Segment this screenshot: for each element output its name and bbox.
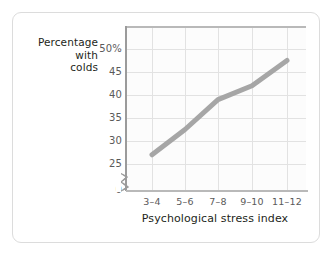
y-tick-label-45: 45 bbox=[88, 66, 122, 77]
y-tick-label-50: 50% bbox=[88, 43, 122, 54]
y-tick-label-25: 25 bbox=[88, 158, 122, 169]
y-tick-label-35: 35 bbox=[88, 112, 122, 123]
y-tick-label-30: 30 bbox=[88, 135, 122, 146]
x-axis-title: Psychological stress index bbox=[100, 212, 330, 225]
y-axis-title-line-3: colds bbox=[18, 61, 98, 74]
line-chart: Percentage with colds 50% 45 40 35 30 25… bbox=[0, 0, 334, 257]
y-tick-label-40: 40 bbox=[88, 89, 122, 100]
y-axis-title-line-2: with bbox=[18, 49, 98, 62]
data-series-line bbox=[126, 26, 306, 191]
x-tick-label-5: 11–12 bbox=[265, 196, 309, 207]
y-axis-title-line-1: Percentage bbox=[18, 36, 98, 49]
y-axis-title: Percentage with colds bbox=[18, 36, 98, 74]
